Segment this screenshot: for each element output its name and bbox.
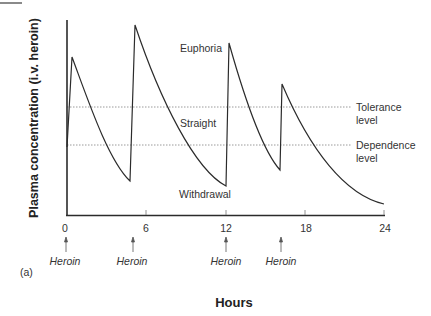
concentration-curve — [67, 25, 384, 204]
tolerance-label-line2: level — [356, 114, 378, 126]
dose-label: Heroin — [50, 255, 81, 267]
x-axis-label: Hours — [215, 295, 253, 310]
x-tick-label-6: 6 — [143, 222, 149, 234]
x-tick-label-24: 24 — [379, 222, 391, 234]
y-axis-label: Plasma concentration (i.v. heroin) — [27, 18, 41, 218]
x-tick-label-0: 0 — [62, 222, 68, 234]
straight-label: Straight — [180, 117, 216, 129]
dose-arrows — [65, 237, 283, 252]
x-tick-label-18: 18 — [300, 222, 312, 234]
x-tick-label-12: 12 — [220, 222, 232, 234]
dependence-label-line2: level — [356, 152, 378, 164]
dependence-level-label: Dependence level — [356, 139, 416, 165]
dose-label: Heroin — [266, 255, 297, 267]
tolerance-level-label: Tolerance level — [356, 101, 402, 127]
dose-label: Heroin — [211, 255, 242, 267]
panel-label: (a) — [20, 266, 33, 278]
dependence-label-line1: Dependence — [356, 139, 416, 151]
tolerance-label-line1: Tolerance — [356, 101, 402, 113]
dose-label: Heroin — [117, 255, 148, 267]
withdrawal-label: Withdrawal — [179, 188, 231, 200]
euphoria-label: Euphoria — [180, 42, 222, 54]
